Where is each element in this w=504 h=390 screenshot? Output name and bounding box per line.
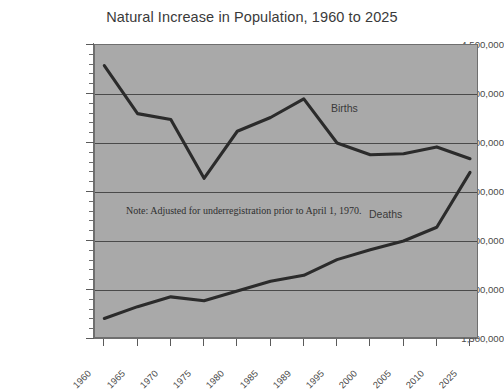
y-tick-major [86,44,94,45]
x-tick [436,339,437,346]
plot-area: Births Deaths Note: Adjusted for underre… [94,44,478,338]
x-tick [270,339,271,346]
x-tick-label: 1985 [237,368,260,390]
x-tick-label: 1975 [171,368,194,390]
x-tick [203,339,204,346]
x-tick-label: 1960 [71,368,94,390]
x-tick [137,339,138,346]
x-tick-label: 1965 [104,368,127,390]
x-tick-label: 1970 [137,368,160,390]
y-tick-major [86,191,94,192]
y-tick-major [86,289,94,290]
x-tick-label: 2005 [370,368,393,390]
x-tick-label: 1989 [270,368,293,390]
births-line [104,66,470,179]
x-tick [236,339,237,346]
x-tick-label: 2010 [403,368,426,390]
y-tick-major [86,93,94,94]
series-label-births: Births [331,102,358,114]
x-tick-label: 2000 [337,368,360,390]
deaths-line [104,172,470,318]
y-tick-major [86,142,94,143]
series-lines [95,45,478,338]
x-tick-label: 2025 [436,368,459,390]
x-tick-label: 1980 [204,368,227,390]
x-tick [303,339,304,346]
chart-figure: Natural Increase in Population, 1960 to … [0,0,504,390]
x-tick-label: 1995 [304,368,327,390]
x-tick [469,339,470,346]
y-tick-major [86,240,94,241]
x-tick [336,339,337,346]
series-label-deaths: Deaths [369,208,402,220]
underregistration-note: Note: Adjusted for underregistration pri… [126,205,362,216]
y-tick-major [86,338,94,339]
chart-title: Natural Increase in Population, 1960 to … [0,9,504,25]
x-tick [103,339,104,346]
x-tick [369,339,370,346]
x-tick [403,339,404,346]
x-tick [170,339,171,346]
